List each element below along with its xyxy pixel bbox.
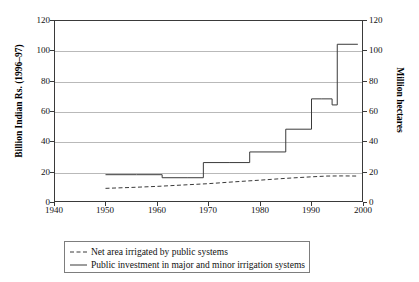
y-tickmark-right-100 <box>363 50 367 51</box>
series-layer <box>54 20 363 202</box>
legend-label-net-area-irrigated: Net area irrigated by public systems <box>91 247 228 257</box>
y-tickmark-right-20 <box>363 172 367 173</box>
y-axis-right-title: Million hectares <box>395 30 405 170</box>
x-tick-label-1990: 1990 <box>291 206 331 215</box>
series-line-net-area-irrigated <box>106 176 358 188</box>
x-tick-label-1940: 1940 <box>34 206 74 215</box>
y-tick-label-left-20: 20 <box>24 168 50 177</box>
x-tick-label-2000: 2000 <box>343 206 383 215</box>
legend-swatch-solid-icon <box>70 261 87 269</box>
y-tick-label-left-100: 100 <box>24 46 50 55</box>
y-tick-label-right-80: 80 <box>369 77 395 86</box>
x-tick-label-1960: 1960 <box>137 206 177 215</box>
y-tick-label-right-120: 120 <box>369 16 395 25</box>
y-tickmark-right-80 <box>363 81 367 82</box>
series-line-public-investment <box>106 44 358 177</box>
y-tick-label-right-40: 40 <box>369 137 395 146</box>
chart-figure: Billion Indian Rs. (1996–97) Million hec… <box>0 0 419 282</box>
y-tick-label-right-20: 20 <box>369 168 395 177</box>
y-axis-left-title: Billion Indian Rs. (1996–97) <box>14 21 24 181</box>
x-tick-label-1980: 1980 <box>240 206 280 215</box>
chart-legend: Net area irrigated by public systems Pub… <box>64 241 310 273</box>
legend-swatch-dashed-icon <box>70 248 87 256</box>
y-tick-label-left-80: 80 <box>24 77 50 86</box>
y-tick-label-right-60: 60 <box>369 107 395 116</box>
y-tick-label-left-60: 60 <box>24 107 50 116</box>
y-tickmark-right-120 <box>363 20 367 21</box>
legend-label-public-investment: Public investment in major and minor irr… <box>91 260 305 270</box>
legend-item-net-area-irrigated: Net area irrigated by public systems <box>70 245 304 258</box>
legend-item-public-investment: Public investment in major and minor irr… <box>70 258 304 271</box>
x-tick-label-1970: 1970 <box>188 206 228 215</box>
y-tickmark-right-60 <box>363 111 367 112</box>
y-tick-label-left-120: 120 <box>24 16 50 25</box>
y-tick-label-left-40: 40 <box>24 137 50 146</box>
y-tickmark-right-40 <box>363 141 367 142</box>
x-tick-label-1950: 1950 <box>85 206 125 215</box>
y-tick-label-right-100: 100 <box>369 46 395 55</box>
